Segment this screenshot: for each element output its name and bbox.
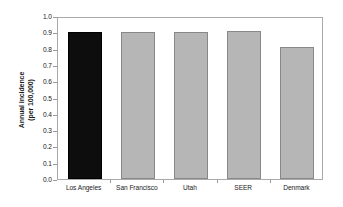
- plot-area: [57, 17, 323, 180]
- y-axis-tick-label: 0.8: [33, 46, 52, 53]
- y-axis-tick-label: 0.5: [33, 95, 52, 102]
- x-axis-tick-mark: [270, 180, 271, 183]
- y-axis-tick-label: 0.9: [33, 30, 52, 37]
- bars-layer: [58, 18, 322, 179]
- y-axis-tick-labels: 0.00.10.20.30.40.50.60.70.80.91.0: [33, 0, 52, 207]
- y-axis-tick-label: 0.7: [33, 63, 52, 70]
- x-axis-tick-label-los-angeles: Los Angeles: [57, 185, 110, 192]
- x-axis-tick-label-utah: Utah: [163, 185, 216, 192]
- y-axis-tick-mark: [53, 180, 57, 181]
- x-axis-tick-label-san-francisco: San Francisco: [110, 185, 163, 192]
- y-axis-tick-label: 0.2: [33, 144, 52, 151]
- y-axis-tick-label: 0.1: [33, 160, 52, 167]
- x-axis-tick-mark: [217, 180, 218, 183]
- bar-san-francisco[interactable]: [121, 32, 155, 179]
- y-axis-tick-label: 0.0: [33, 177, 52, 184]
- bar-utah[interactable]: [174, 32, 208, 179]
- x-axis-tick-label-denmark: Denmark: [270, 185, 323, 192]
- bar-seer[interactable]: [227, 31, 261, 179]
- x-axis-tick-mark: [163, 180, 164, 183]
- y-axis-tick-label: 1.0: [33, 14, 52, 21]
- bar-los-angeles[interactable]: [68, 32, 102, 179]
- x-axis-tick-labels: Los AngelesSan FranciscoUtahSEERDenmark: [57, 185, 323, 199]
- x-axis-tick-label-seer: SEER: [217, 185, 270, 192]
- x-axis-tick-mark: [110, 180, 111, 183]
- y-axis-tick-label: 0.4: [33, 112, 52, 119]
- y-axis-tick-label: 0.6: [33, 79, 52, 86]
- bar-denmark[interactable]: [280, 47, 314, 179]
- y-axis-tick-label: 0.3: [33, 128, 52, 135]
- bar-chart-figure: Annual incidence (per 100,000) 0.00.10.2…: [0, 0, 343, 207]
- y-axis-title-line-1: Annual incidence: [18, 72, 27, 128]
